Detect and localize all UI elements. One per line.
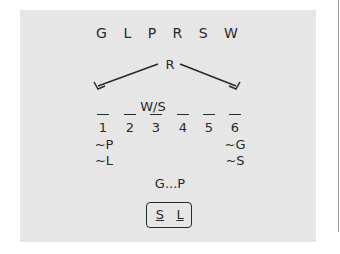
slot-4 [177,114,189,115]
slot-number-5: 5 [205,121,213,134]
slot-3 [150,114,162,115]
answer-box [146,202,192,228]
slot-5 [203,114,215,115]
slot-number-4: 4 [179,121,187,134]
slot-number-3: 3 [152,121,160,134]
answer-letter-1: S [156,208,164,221]
sequence-hint: G...P [155,177,185,190]
slot-number-1: 1 [99,121,107,134]
slot-2 [124,114,136,115]
slot-number-2: 2 [126,121,134,134]
left-constraint-1: ~P [95,138,114,151]
slot-6 [229,114,241,115]
slot-number-6: 6 [231,121,239,134]
left-constraint-2: ~L [95,154,113,167]
slot-1 [97,114,109,115]
right-constraint-2: ~S [225,154,244,167]
slot-note: W/S [140,100,166,113]
right-constraint-1: ~G [225,138,246,151]
answer-letter-2: L [176,208,183,221]
